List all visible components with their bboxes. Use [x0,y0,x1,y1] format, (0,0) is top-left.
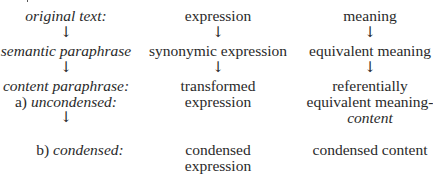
label-original-text: original text: [25,7,106,24]
condensed-expression-line1: condensed [185,141,250,158]
down-arrow-icon: ↓ [60,109,73,126]
expression: expression [185,7,251,24]
marker-b: b) [36,141,49,158]
down-arrow-icon: ↓ [364,24,377,41]
clipped-top-mark [27,0,28,2]
down-arrow-icon: ↓ [212,59,225,76]
condensed-text: condensed: [53,141,124,158]
synonymic-expression: synonymic expression [149,42,287,59]
down-arrow-icon: ↓ [60,24,73,41]
equivalent-meaning: equivalent meaning [309,42,431,59]
condensed-content: condensed content [313,141,428,158]
referential-meaning-line1: referentially [332,77,408,94]
referential-meaning-line2: equivalent meaning- [307,93,433,110]
down-arrow-icon: ↓ [364,59,377,76]
uncondensed-text: uncondensed: [31,93,117,110]
down-arrow-icon: ↓ [212,24,225,41]
marker-a: a) [15,93,27,110]
meaning: meaning [343,7,396,24]
referential-meaning-line3: content [347,109,393,126]
down-arrow-icon: ↓ [60,59,73,76]
label-condensed: b) condensed: [36,141,123,158]
label-content-paraphrase: content paraphrase: [3,77,129,94]
condensed-expression-line2: expression [185,157,251,174]
transformed-expression-line1: transformed [181,77,256,94]
transformed-expression-line2: expression [185,93,251,110]
label-semantic-paraphrase: semantic paraphrase [1,42,131,59]
